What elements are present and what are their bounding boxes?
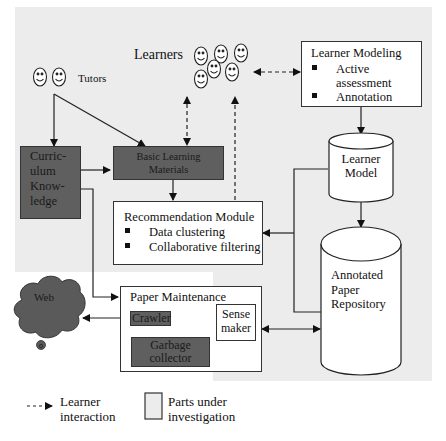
web-label: Web	[34, 291, 54, 304]
basic-learning-materials-box: Basic Learning Materials	[113, 146, 224, 180]
web-cloud-icon	[14, 276, 85, 349]
garbage-collector-box: Garbage collector	[131, 337, 210, 367]
bullet-icon	[125, 243, 130, 248]
curriculum-line: Curric-	[30, 149, 66, 164]
tutor-face-icon	[53, 68, 66, 86]
paper-maintenance-box: Paper Maintenance Crawler Garbage collec…	[120, 286, 262, 372]
learner-modeling-box: Learner Modeling Active assessment Annot…	[301, 41, 422, 107]
materials-line: Materials	[114, 163, 223, 176]
learners-label: Learners	[134, 47, 183, 63]
recommendation-module-box: Recommendation Module Data clustering Co…	[113, 201, 263, 265]
bullet-icon	[312, 65, 317, 70]
paper-maintenance-title: Paper Maintenance	[130, 290, 226, 304]
curriculum-line: ulum	[30, 164, 66, 179]
learner-model-label: Learner Model	[329, 152, 393, 180]
learner-modeling-title: Learner Modeling	[311, 46, 402, 60]
learner-modeling-item: Active	[312, 62, 392, 76]
bullet-icon	[312, 93, 317, 98]
bullet-icon	[125, 228, 130, 233]
curriculum-line: Know-	[30, 179, 66, 194]
sense-maker-box: Sense maker	[216, 304, 256, 341]
legend-investigation-swatch	[145, 393, 162, 419]
legend-learner-interaction: Learner interaction	[60, 394, 116, 424]
tutors-label: Tutors	[78, 72, 106, 85]
recommendation-item: Data clustering	[125, 225, 260, 240]
learner-modeling-item-cont: assessment	[312, 76, 392, 90]
crawler-box: Crawler	[130, 311, 171, 326]
learner-modeling-item: Annotation	[312, 90, 392, 104]
curriculum-line: ledge	[30, 194, 66, 209]
recommendation-item: Collaborative filtering	[125, 240, 260, 255]
curriculum-knowledge-box: Curric- ulum Know- ledge	[20, 146, 81, 219]
recommendation-title: Recommendation Module	[124, 210, 254, 224]
legend-parts-under-investigation: Parts under investigation	[168, 394, 235, 424]
annotated-paper-repository-label: Annotated Paper Repository	[331, 268, 386, 312]
materials-line: Basic Learning	[114, 150, 223, 163]
tutor-face-icon	[34, 68, 47, 86]
